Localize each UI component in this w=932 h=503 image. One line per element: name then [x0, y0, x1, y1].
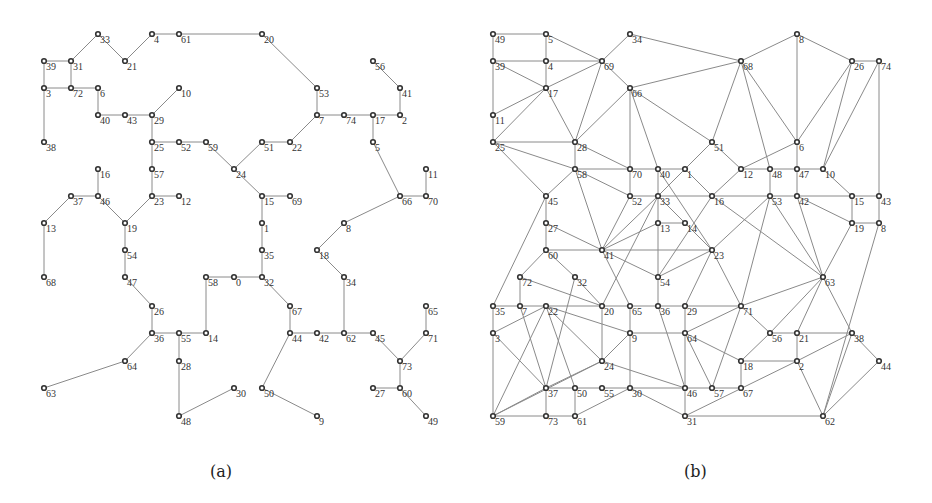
node-label: 3 [495, 333, 500, 344]
node-label: 18 [743, 361, 753, 372]
graph-edge [317, 223, 344, 250]
node-label: 65 [632, 306, 642, 317]
node-label: 18 [319, 250, 329, 261]
node-label: 67 [292, 306, 302, 317]
node-label: 6 [799, 142, 804, 153]
node-label: 8 [881, 223, 886, 234]
graph-edge [630, 88, 658, 169]
node-label: 31 [73, 61, 83, 72]
node-label: 19 [127, 223, 137, 234]
node-label: 53 [319, 88, 329, 99]
node-label: 40 [100, 115, 110, 126]
node-label: 37 [73, 196, 83, 207]
graph-edge [179, 388, 234, 416]
node-label: 65 [428, 306, 438, 317]
node-label: 50 [577, 388, 587, 399]
node-label: 20 [604, 306, 614, 317]
graph-edge [575, 88, 630, 142]
graph-edge [712, 169, 741, 196]
graph-edge [44, 361, 125, 388]
node-label: 2 [402, 115, 407, 126]
node-label: 28 [181, 361, 191, 372]
node-label: 30 [632, 388, 642, 399]
graph-edge [493, 142, 575, 169]
graph-edge [520, 306, 546, 388]
node-label: 55 [181, 333, 191, 344]
graph-edge [658, 250, 712, 277]
graph-panel-a: 0123456789101112131415161718192021222324… [42, 32, 438, 427]
graph-edge [493, 306, 546, 416]
node-label: 12 [181, 196, 191, 207]
node-label: 57 [154, 169, 164, 180]
node-label: 36 [660, 306, 670, 317]
nodes-a: 0123456789101112131415161718192021222324… [42, 32, 438, 427]
node-label: 40 [660, 169, 670, 180]
node-label: 45 [375, 333, 385, 344]
node-label: 22 [548, 306, 558, 317]
node-label: 11 [495, 115, 505, 126]
graph-edge [630, 61, 741, 88]
node-label: 9 [319, 416, 324, 427]
node-label: 41 [402, 88, 412, 99]
graph-edge [797, 34, 852, 61]
node-label: 44 [881, 361, 891, 372]
graph-panel-b: 1234567891011121314151617181920212223242… [491, 32, 891, 427]
graph-edge [823, 223, 879, 416]
node-label: 43 [127, 115, 137, 126]
node-label: 52 [181, 142, 191, 153]
node-label: 46 [687, 388, 697, 399]
node-label: 62 [346, 333, 356, 344]
node-label: 72 [522, 277, 532, 288]
graph-edge [575, 61, 602, 142]
node-label: 26 [854, 61, 864, 72]
graph-edge [290, 115, 317, 142]
graph-edge [546, 34, 602, 61]
node-label: 13 [46, 223, 56, 234]
graph-edge [546, 169, 575, 196]
graph-edge [741, 333, 770, 361]
node-label: 10 [825, 169, 835, 180]
node-label: 59 [495, 416, 505, 427]
node-label: 42 [319, 333, 329, 344]
graph-edge [71, 34, 98, 61]
node-label: 73 [402, 361, 412, 372]
graph-edge [797, 277, 823, 333]
node-label: 29 [687, 306, 697, 317]
node-label: 34 [632, 34, 642, 45]
node-label: 10 [181, 88, 191, 99]
node-label: 4 [548, 61, 553, 72]
node-label: 16 [714, 196, 724, 207]
graph-edge [125, 196, 152, 223]
node-label: 36 [154, 333, 164, 344]
node-label: 52 [632, 196, 642, 207]
node-label: 71 [428, 333, 438, 344]
node-label: 8 [346, 223, 351, 234]
graph-edge [493, 88, 546, 115]
node-label: 63 [46, 388, 56, 399]
nodes-b: 1234567891011121314151617181920212223242… [491, 32, 891, 427]
graph-edge [685, 250, 712, 306]
node-label: 25 [495, 142, 505, 153]
node-label: 67 [743, 388, 753, 399]
node-label: 14 [687, 223, 697, 234]
node-label: 23 [154, 196, 164, 207]
graph-edge [520, 250, 546, 277]
graph-edge [658, 196, 712, 277]
node-label: 66 [632, 88, 642, 99]
node-label: 38 [46, 142, 56, 153]
node-label: 5 [548, 34, 553, 45]
node-label: 39 [46, 61, 56, 72]
node-label: 37 [548, 388, 558, 399]
node-label: 32 [264, 277, 274, 288]
node-label: 70 [632, 169, 642, 180]
node-label: 60 [548, 250, 558, 261]
node-label: 6 [100, 88, 105, 99]
graph-edge [602, 196, 630, 250]
node-label: 21 [127, 61, 137, 72]
graph-edge [575, 169, 602, 250]
node-label: 69 [604, 61, 614, 72]
node-label: 33 [100, 34, 110, 45]
node-label: 26 [154, 306, 164, 317]
node-label: 74 [881, 61, 891, 72]
node-label: 72 [73, 88, 83, 99]
